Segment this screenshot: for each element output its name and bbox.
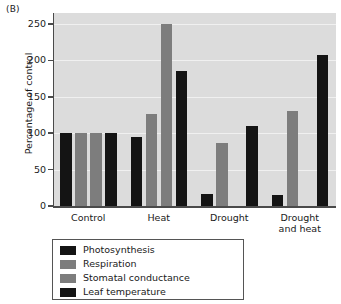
bar <box>176 71 188 206</box>
legend-swatch-icon <box>60 288 76 297</box>
bar <box>317 55 329 206</box>
x-axis-label: Control <box>53 212 124 223</box>
bar <box>272 195 284 206</box>
legend-label: Stomatal conductance <box>83 273 190 283</box>
x-axis-label: Drought <box>194 212 265 223</box>
legend-item: Photosynthesis <box>60 243 243 257</box>
bar <box>105 133 117 206</box>
chart-legend: PhotosynthesisRespirationStomatal conduc… <box>52 239 244 300</box>
bar <box>201 194 213 206</box>
x-axis-label: Drought and heat <box>265 212 336 234</box>
bar <box>90 133 102 206</box>
legend-item: Stomatal conductance <box>60 271 243 285</box>
bar <box>131 137 143 206</box>
bar <box>75 133 87 206</box>
legend-label: Photosynthesis <box>83 245 155 255</box>
legend-item: Leaf temperature <box>60 285 243 299</box>
legend-label: Respiration <box>83 259 137 269</box>
legend-swatch-icon <box>60 274 76 283</box>
legend-swatch-icon <box>60 246 76 255</box>
bar <box>216 143 228 206</box>
legend-item: Respiration <box>60 257 243 271</box>
legend-swatch-icon <box>60 260 76 269</box>
bar <box>60 133 72 206</box>
bar <box>246 126 258 206</box>
figure-panel-b: (B) Percentage of control 05010015020025… <box>0 0 341 304</box>
bar <box>146 114 158 206</box>
legend-label: Leaf temperature <box>83 287 166 297</box>
bar <box>161 24 173 206</box>
x-axis-label: Heat <box>124 212 195 223</box>
bar <box>287 111 299 206</box>
